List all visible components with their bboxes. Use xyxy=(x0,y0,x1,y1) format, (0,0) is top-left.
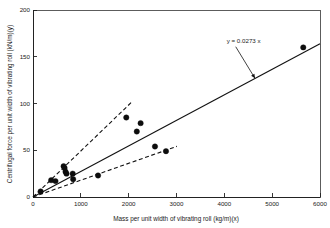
equation-annotation: y = 0.0273 x xyxy=(227,37,262,79)
data-point xyxy=(70,171,75,176)
x-axis-tick-labels: 0100020003000400050006000 xyxy=(31,200,327,207)
y-tick-label: 200 xyxy=(20,6,31,13)
y-tick-label: 150 xyxy=(20,53,31,60)
chart-figure: 0100020003000400050006000 050100150200 y… xyxy=(0,0,330,228)
annotation-arrow-line xyxy=(236,47,255,79)
data-point xyxy=(138,120,143,125)
plot-frame xyxy=(33,10,320,197)
data-point xyxy=(95,173,100,178)
equation-label: y = 0.0273 x xyxy=(227,37,262,44)
y-tick-label: 50 xyxy=(23,146,30,153)
x-axis-ticks xyxy=(33,193,320,197)
data-point xyxy=(301,45,306,50)
data-point xyxy=(134,129,139,134)
y-axis-title: Centrifugal force per unit width of vibr… xyxy=(6,25,14,183)
x-tick-label: 6000 xyxy=(313,200,327,207)
data-point xyxy=(53,178,58,183)
x-tick-label: 5000 xyxy=(265,200,279,207)
data-point xyxy=(163,148,168,153)
data-point xyxy=(152,144,157,149)
lower-envelope xyxy=(33,146,177,197)
y-tick-label: 0 xyxy=(27,193,31,200)
x-tick-label: 0 xyxy=(31,200,35,207)
x-tick-label: 3000 xyxy=(170,200,184,207)
y-axis-ticks xyxy=(33,10,37,197)
upper-envelope xyxy=(33,102,132,197)
y-axis-tick-labels: 050100150200 xyxy=(20,6,31,200)
data-point xyxy=(70,177,75,182)
x-tick-label: 1000 xyxy=(74,200,88,207)
regression-line xyxy=(33,44,320,197)
x-axis-title: Mass per unit width of vibrating roll (k… xyxy=(113,215,239,223)
data-point xyxy=(38,189,43,194)
x-tick-label: 2000 xyxy=(122,200,136,207)
scatter-plot: 0100020003000400050006000 050100150200 y… xyxy=(0,0,330,228)
data-point xyxy=(124,115,129,120)
x-tick-label: 4000 xyxy=(217,200,231,207)
data-point xyxy=(64,171,69,176)
y-tick-label: 100 xyxy=(20,100,31,107)
fit-line xyxy=(33,44,320,197)
data-points xyxy=(38,45,306,194)
